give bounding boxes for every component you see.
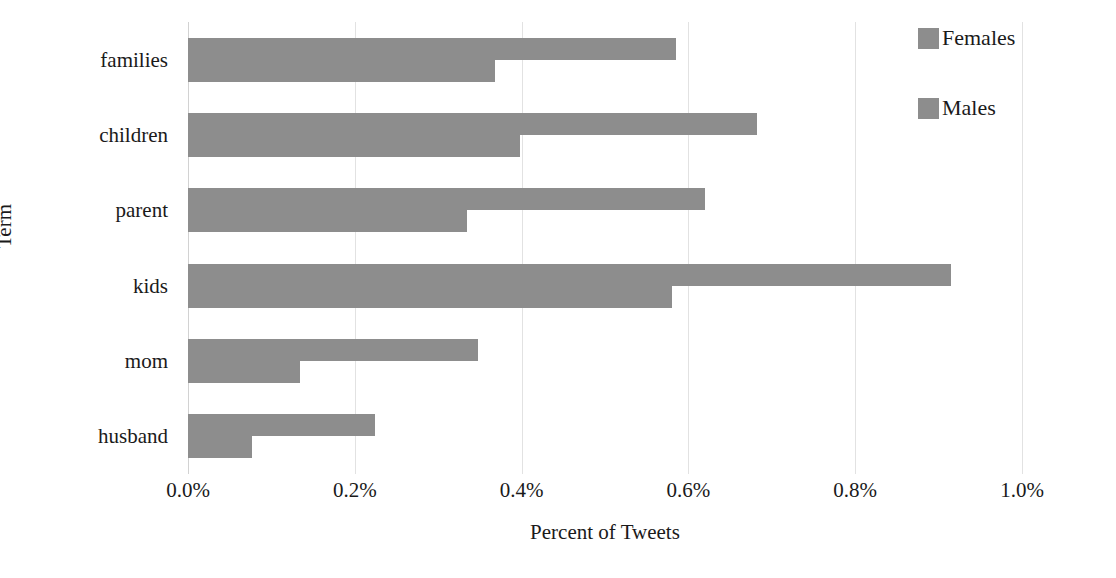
y-axis-tick-label: mom <box>125 351 168 372</box>
bar-group <box>188 339 1022 383</box>
y-axis-tick-label: families <box>100 49 168 70</box>
y-axis-tick-label: kids <box>133 275 168 296</box>
plot-area <box>188 22 1022 474</box>
legend-label: Females <box>942 27 1015 49</box>
legend-swatch-icon <box>918 28 939 49</box>
legend-swatch-icon <box>918 98 939 119</box>
legend-entry-males[interactable]: Males <box>918 96 1108 120</box>
bar[interactable] <box>188 135 520 157</box>
gridline <box>855 22 856 474</box>
bar[interactable] <box>188 113 757 135</box>
x-axis-tick-label: 0.2% <box>333 480 377 501</box>
legend-label: Males <box>942 97 996 119</box>
x-axis-tick-label: 1.0% <box>1000 480 1044 501</box>
bar[interactable] <box>188 210 467 232</box>
y-axis-tick-labels: familieschildrenparentkidsmomhusband <box>0 22 178 474</box>
x-axis-title: Percent of Tweets <box>188 522 1022 543</box>
bar[interactable] <box>188 339 478 361</box>
legend-entry-females[interactable]: Females <box>918 26 1108 50</box>
bar[interactable] <box>188 361 300 383</box>
y-axis-tick-label: parent <box>116 200 168 221</box>
bar[interactable] <box>188 414 375 436</box>
bar[interactable] <box>188 286 672 308</box>
y-axis-tick-label: children <box>99 125 168 146</box>
y-axis-tick-label: husband <box>98 426 168 447</box>
bar[interactable] <box>188 60 495 82</box>
gridline <box>355 22 356 474</box>
x-axis-tick-labels: 0.0%0.2%0.4%0.6%0.8%1.0% <box>188 480 1022 514</box>
gridline <box>522 22 523 474</box>
bar-group <box>188 188 1022 232</box>
gridline <box>188 22 189 474</box>
bar-group <box>188 113 1022 157</box>
x-axis-tick-label: 0.6% <box>667 480 711 501</box>
x-axis-tick-label: 0.0% <box>166 480 210 501</box>
bar[interactable] <box>188 436 252 458</box>
bar[interactable] <box>188 264 951 286</box>
x-axis-tick-label: 0.4% <box>500 480 544 501</box>
gridline <box>688 22 689 474</box>
bar-chart: Term familieschildrenparentkidsmomhusban… <box>0 0 1116 578</box>
bar-group <box>188 414 1022 458</box>
bar[interactable] <box>188 188 705 210</box>
legend: Females Males <box>918 26 1108 166</box>
bar[interactable] <box>188 38 676 60</box>
bar-group <box>188 38 1022 82</box>
bar-group <box>188 264 1022 308</box>
x-axis-tick-label: 0.8% <box>833 480 877 501</box>
